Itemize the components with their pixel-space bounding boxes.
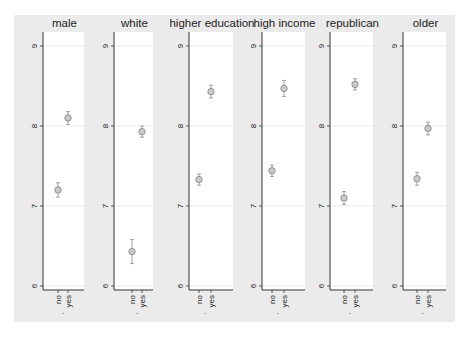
y-tick-label: 8 [176,123,185,128]
y-tick-label: 8 [390,123,399,128]
plot-area [403,32,446,290]
x-category-label: yes [280,295,289,307]
data-point-yes [139,128,145,134]
plot-area [262,32,305,290]
x-axis-title: . [62,307,64,316]
x-category-label: yes [138,295,147,307]
data-point-no [341,195,347,201]
x-category-label: no [413,294,422,303]
x-category-label: yes [351,295,360,307]
x-axis-title: . [277,307,279,316]
data-point-no [129,248,135,254]
y-tick-label: 7 [176,203,185,208]
y-tick-label: 8 [249,123,258,128]
data-point-no [269,168,275,174]
y-tick-label: 6 [317,283,326,288]
y-tick-label: 8 [30,123,39,128]
x-category-label: no [340,294,349,303]
panel-title: white [120,17,148,29]
data-point-no [414,176,420,182]
y-tick-label: 9 [101,43,110,48]
y-tick-label: 7 [101,203,110,208]
y-tick-label: 6 [101,283,110,288]
data-point-yes [425,125,431,131]
x-category-label: no [195,294,204,303]
data-point-yes [208,88,214,94]
data-point-yes [352,81,358,87]
y-tick-label: 6 [390,283,399,288]
x-axis-title: . [136,307,138,316]
x-category-label: no [268,294,277,303]
y-tick-label: 9 [30,43,39,48]
y-tick-label: 9 [176,43,185,48]
y-tick-label: 7 [249,203,258,208]
panel-title: higher education [169,17,254,29]
x-category-label: yes [424,295,433,307]
x-axis-title: . [421,307,423,316]
y-tick-label: 6 [30,283,39,288]
data-point-yes [281,85,287,91]
y-tick-label: 7 [317,203,326,208]
x-axis-title: . [348,307,350,316]
panel-title: high income [253,17,315,29]
plot-area [330,32,373,290]
x-category-label: yes [64,295,73,307]
panel-title: male [52,17,77,29]
x-axis-title: . [204,307,206,316]
y-tick-label: 6 [176,283,185,288]
y-tick-label: 7 [30,203,39,208]
x-category-label: yes [207,295,216,307]
plot-area [189,32,233,290]
dot-plot-figure: male6789noyes.white6789noyes.higher educ… [0,0,470,340]
y-tick-label: 9 [317,43,326,48]
x-category-label: no [54,294,63,303]
y-tick-label: 9 [390,43,399,48]
y-tick-label: 7 [390,203,399,208]
data-point-no [196,176,202,182]
y-tick-label: 8 [101,123,110,128]
data-point-no [55,187,61,193]
data-point-yes [65,115,71,121]
y-tick-label: 6 [249,283,258,288]
y-tick-label: 8 [317,123,326,128]
x-category-label: no [128,294,137,303]
y-tick-label: 9 [249,43,258,48]
plot-area [43,32,84,290]
panel-title: republican [326,17,379,29]
panel-title: older [413,17,439,29]
